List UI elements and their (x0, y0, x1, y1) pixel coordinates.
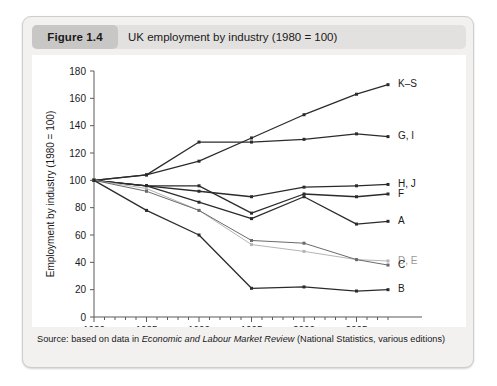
y-tick-label: 180 (69, 66, 86, 77)
series-point (355, 93, 358, 96)
figure-title: UK employment by industry (1980 = 100) (128, 25, 337, 49)
y-tick-label: 140 (69, 120, 86, 131)
series-point (93, 179, 96, 182)
y-tick-label: 40 (75, 257, 87, 268)
series-point (355, 290, 358, 293)
series-point (250, 287, 253, 290)
y-tick-label: 160 (69, 93, 86, 104)
series-point (355, 184, 358, 187)
series-point (303, 193, 306, 196)
series-point (355, 195, 358, 198)
figure-header: Figure 1.4 UK employment by industry (19… (32, 25, 466, 49)
series-point (387, 183, 390, 186)
series-end-label: B (398, 283, 405, 294)
series-point (198, 190, 201, 193)
series-line (94, 85, 388, 181)
series-point (355, 223, 358, 226)
line-chart: 0204060801001201401601801980198519901995… (32, 55, 466, 327)
series-point (198, 234, 201, 237)
series-point (145, 184, 148, 187)
series-line (94, 134, 388, 180)
figure-card: Figure 1.4 UK employment by industry (19… (22, 16, 474, 368)
y-tick-label: 80 (75, 202, 87, 213)
series-point (198, 141, 201, 144)
x-tick-label: 2000 (293, 325, 316, 327)
series-point (355, 132, 358, 135)
series-point (387, 135, 390, 138)
series-point (303, 113, 306, 116)
series-point (303, 242, 306, 245)
series-point (355, 258, 358, 261)
series-end-label: G, I (398, 130, 414, 141)
x-tick-label: 1980 (83, 325, 106, 327)
x-tick-label: 1985 (135, 325, 158, 327)
series-point (303, 250, 306, 253)
chart-plot-panel: 0204060801001201401601801980198519901995… (32, 55, 466, 327)
series-point (145, 190, 148, 193)
x-tick-label: 2005 (345, 325, 368, 327)
series-point (250, 212, 253, 215)
series-point (145, 209, 148, 212)
series-d-e: D, E (93, 179, 418, 266)
series-point (250, 239, 253, 242)
series-point (198, 184, 201, 187)
source-suffix: (National Statistics, various editions) (294, 334, 445, 344)
x-tick-label: 1995 (240, 325, 263, 327)
series-point (198, 209, 201, 212)
series-end-label: A (398, 215, 405, 226)
y-tick-label: 0 (80, 312, 86, 323)
source-prefix: Source: based on data in (37, 334, 142, 344)
source-publication: Economic and Labour Market Review (142, 334, 295, 344)
series-point (250, 195, 253, 198)
series-k-s: K–S (93, 78, 418, 182)
series-end-label: C (398, 259, 405, 270)
series-end-label: F (398, 188, 404, 199)
series-point (387, 259, 390, 262)
y-axis-title: Employment by industry (1980 = 100) (45, 111, 56, 277)
series-line (94, 180, 388, 261)
series-point (303, 285, 306, 288)
series-point (387, 288, 390, 291)
series-point (250, 243, 253, 246)
series-end-label: K–S (398, 78, 417, 89)
y-tick-label: 60 (75, 230, 87, 241)
x-tick-label: 1990 (188, 325, 211, 327)
series-point (198, 201, 201, 204)
series-line (94, 180, 388, 196)
source-note: Source: based on data in Economic and La… (37, 334, 463, 346)
series-point (145, 173, 148, 176)
y-tick-label: 100 (69, 175, 86, 186)
series-point (303, 195, 306, 198)
series-point (303, 186, 306, 189)
figure-number-badge: Figure 1.4 (32, 25, 118, 49)
y-tick-label: 120 (69, 148, 86, 159)
series-point (303, 138, 306, 141)
series-line (94, 180, 388, 291)
series-point (387, 193, 390, 196)
series-point (250, 141, 253, 144)
series-point (198, 160, 201, 163)
series-g-i: G, I (93, 130, 415, 182)
y-tick-label: 20 (75, 284, 87, 295)
series-point (145, 187, 148, 190)
series-point (387, 264, 390, 267)
series-point (387, 220, 390, 223)
series-point (387, 83, 390, 86)
series-point (250, 217, 253, 220)
series-point (250, 136, 253, 139)
series-line (94, 180, 388, 265)
